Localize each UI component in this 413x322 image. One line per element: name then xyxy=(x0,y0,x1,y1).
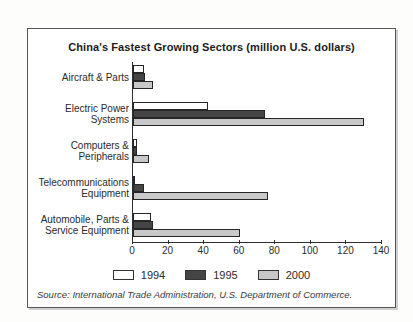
x-axis-tick-label-80: 80 xyxy=(269,245,280,256)
legend-label-2000: 2000 xyxy=(286,269,310,281)
bar-1994-aircraft-parts xyxy=(133,65,144,73)
bar-2000-automobile-parts xyxy=(133,229,240,237)
chart-title: China's Fastest Growing Sectors (million… xyxy=(28,41,395,53)
legend-item-1994: 1994 xyxy=(113,269,165,281)
x-axis-tick-label-60: 60 xyxy=(233,245,244,256)
legend: 199419952000 xyxy=(28,269,395,281)
plot-area xyxy=(132,62,382,243)
category-label-electric-power: Electric Power Systems xyxy=(32,102,129,139)
x-axis-tick-60 xyxy=(239,240,240,244)
category-label-telecommunications: Telecommunications Equipment xyxy=(32,176,129,213)
x-axis-tick-140 xyxy=(381,240,382,244)
bar-2000-telecommunications xyxy=(133,192,268,200)
x-axis-tick-100 xyxy=(310,240,311,244)
bar-2000-aircraft-parts xyxy=(133,81,153,89)
legend-label-1994: 1994 xyxy=(141,269,165,281)
bar-group-aircraft-parts xyxy=(133,65,382,102)
x-axis-tick-label-40: 40 xyxy=(198,245,209,256)
x-axis-tick-label-120: 120 xyxy=(337,245,354,256)
bar-2000-computers xyxy=(133,155,149,163)
bar-1994-electric-power xyxy=(133,102,208,110)
bar-2000-electric-power xyxy=(133,118,364,126)
figure-box: China's Fastest Growing Sectors (million… xyxy=(27,28,396,308)
x-axis-tick-label-140: 140 xyxy=(373,245,390,256)
x-axis-tick-120 xyxy=(345,240,346,244)
bar-1994-telecommunications xyxy=(133,176,135,184)
x-axis-tick-20 xyxy=(168,240,169,244)
legend-swatch-1995 xyxy=(185,270,206,280)
x-axis-tick-40 xyxy=(203,240,204,244)
x-axis: 020406080100120140 xyxy=(132,240,384,260)
bar-group-electric-power xyxy=(133,102,382,139)
bar-1995-aircraft-parts xyxy=(133,73,145,81)
x-axis-tick-0 xyxy=(132,240,133,244)
category-labels: Aircraft & PartsElectric Power SystemsCo… xyxy=(32,62,129,239)
category-label-aircraft-parts: Aircraft & Parts xyxy=(32,65,129,102)
legend-label-1995: 1995 xyxy=(213,269,237,281)
bar-1994-computers xyxy=(133,139,137,147)
bar-1994-automobile-parts xyxy=(133,213,151,221)
legend-swatch-1994 xyxy=(113,270,134,280)
bar-1995-computers xyxy=(133,147,137,155)
bar-group-computers xyxy=(133,139,382,176)
bar-1995-electric-power xyxy=(133,110,265,118)
legend-swatch-2000 xyxy=(258,270,279,280)
x-axis-tick-label-20: 20 xyxy=(162,245,173,256)
bar-group-telecommunications xyxy=(133,176,382,213)
category-label-automobile-parts: Automobile, Parts & Service Equipment xyxy=(32,213,129,250)
bar-1995-automobile-parts xyxy=(133,221,153,229)
legend-item-2000: 2000 xyxy=(258,269,310,281)
x-axis-tick-label-0: 0 xyxy=(129,245,135,256)
x-axis-tick-80 xyxy=(274,240,275,244)
legend-item-1995: 1995 xyxy=(185,269,237,281)
category-label-computers: Computers & Peripherals xyxy=(32,139,129,176)
bar-1995-telecommunications xyxy=(133,184,144,192)
x-axis-tick-label-100: 100 xyxy=(302,245,319,256)
source-note: Source: International Trade Administrati… xyxy=(37,289,352,300)
